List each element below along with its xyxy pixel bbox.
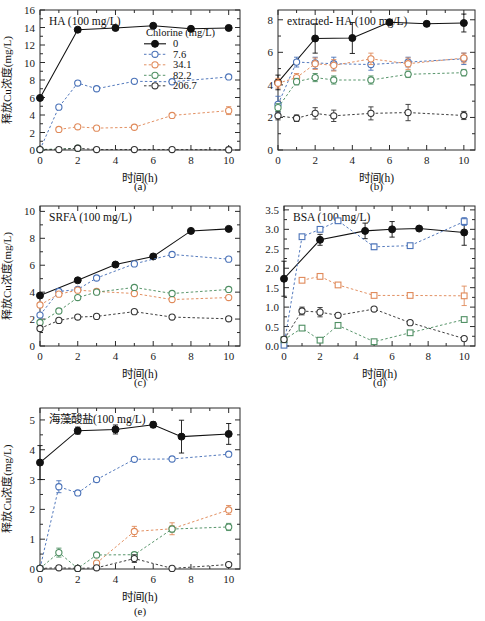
axis-ticks-c: 02468100246810 [24, 205, 240, 362]
axes-frame-d [284, 206, 475, 346]
x-tick-label: 4 [113, 573, 119, 585]
y-tick-label: 4 [30, 286, 36, 298]
series-e-34.1 [94, 505, 232, 566]
y-tick-label: 6 [30, 92, 36, 104]
series-c-206.7 [37, 309, 232, 332]
y-tick-label: 1 [30, 533, 36, 545]
y-tick-label: 3 [30, 474, 36, 486]
y-tick-label: 0 [268, 144, 274, 156]
axes-frame-e [40, 408, 240, 569]
x-tick-label: 6 [389, 350, 395, 362]
x-tick-label: 2 [75, 573, 81, 585]
panel-caption-a: (a) [134, 180, 147, 193]
y-tick-label: 0.0 [265, 340, 279, 352]
y-tick-label: 2 [30, 313, 36, 325]
y-tick-label: 5 [30, 414, 36, 426]
y-tick-label: 6 [30, 259, 36, 271]
x-tick-label: 10 [223, 154, 235, 166]
x-tick-label: 2 [317, 350, 323, 362]
legend-title: Chlorine (mg/L) [146, 27, 216, 39]
chart-panel-b: 024681002468extracted- HA (100 mg/L)时间(h… [248, 0, 485, 196]
series-d-0 [281, 220, 468, 297]
y-tick-label: 0 [30, 340, 36, 352]
x-tick-label: 10 [459, 350, 471, 362]
y-tick-label: 14 [24, 22, 36, 34]
chart-svg-d: 02468100.00.51.01.52.02.53.03.5BSA (100 … [248, 196, 485, 392]
y-tick-label: 12 [24, 39, 35, 51]
y-tick-label: 4 [268, 79, 274, 91]
x-tick-label: 8 [425, 350, 431, 362]
panel-caption-d: (d) [373, 376, 386, 389]
y-tick-label: 2 [30, 127, 36, 139]
panel-caption-e: (e) [134, 605, 147, 618]
y-tick-label: 1.0 [265, 301, 279, 313]
series-d-206.7 [281, 306, 467, 343]
series-e-0 [37, 420, 233, 479]
x-tick-label: 4 [350, 154, 356, 166]
axis-ticks-d: 02468100.00.51.01.52.02.53.03.5 [265, 204, 475, 362]
y-tick-label: 2.0 [265, 262, 279, 274]
series-a-34.1 [56, 107, 232, 133]
x-tick-label: 8 [188, 573, 194, 585]
panel-title-a: HA (100 mg/L) [49, 15, 121, 28]
y-tick-label: 16 [24, 4, 36, 16]
y-tick-label: 10 [24, 205, 36, 217]
legend-item-label: 206.7 [173, 80, 197, 91]
y-tick-label: 8 [268, 14, 274, 26]
series-a-206.7 [37, 145, 232, 153]
y-axis-title-e: 释放Cu浓度(mg/L) [0, 444, 14, 532]
series-d-82.2 [281, 317, 467, 345]
x-tick-label: 2 [75, 350, 81, 362]
x-tick-label: 0 [37, 573, 43, 585]
x-tick-label: 10 [458, 154, 470, 166]
x-tick-label: 6 [150, 573, 156, 585]
y-tick-label: 2.5 [265, 243, 279, 255]
x-tick-label: 2 [312, 154, 318, 166]
y-axis-title-c: 释放Cu浓度(mg/L) [0, 232, 14, 320]
x-tick-label: 8 [188, 154, 194, 166]
chart-svg-c: 02468100246810SRFA (100 mg/L)时间(h)释放Cu浓度… [0, 196, 248, 392]
y-axis-title-a: 释放Cu浓度(mg/L) [0, 36, 14, 124]
chart-svg-e: 0246810012345海藻酸盐(100 mg/L)时间(h)释放Cu浓度(m… [0, 392, 248, 621]
series-d-34.1 [299, 274, 467, 306]
legend-item-label: 34.1 [173, 59, 191, 70]
x-tick-label: 8 [424, 154, 430, 166]
axes-frame-c [40, 206, 240, 346]
panel-title-d: BSA (100 mg/L) [293, 211, 370, 224]
chart-panel-e: 0246810012345海藻酸盐(100 mg/L)时间(h)释放Cu浓度(m… [0, 392, 248, 621]
x-tick-label: 6 [150, 350, 156, 362]
axes-frame-b [278, 10, 475, 150]
y-tick-label: 3.5 [265, 204, 279, 216]
x-tick-label: 10 [223, 573, 235, 585]
y-tick-label: 4 [30, 444, 36, 456]
x-tick-label: 6 [150, 154, 156, 166]
chart-panel-a: 02468100246810121416HA (100 mg/L)Chlorin… [0, 0, 248, 196]
y-tick-label: 0.5 [265, 321, 279, 333]
panel-title-c: SRFA (100 mg/L) [49, 211, 132, 224]
y-tick-label: 4 [30, 109, 36, 121]
x-axis-title-e: 时间(h) [122, 591, 158, 604]
x-tick-label: 8 [188, 350, 194, 362]
x-tick-label: 4 [113, 154, 119, 166]
chart-panel-d: 02468100.00.51.01.52.02.53.03.5BSA (100 … [248, 196, 485, 392]
y-tick-label: 10 [24, 57, 36, 69]
y-tick-label: 3.0 [265, 223, 279, 235]
series-b-82.2 [275, 69, 467, 111]
x-tick-label: 2 [75, 154, 81, 166]
x-tick-label: 0 [275, 154, 281, 166]
panel-title-e: 海藻酸盐(100 mg/L) [49, 412, 146, 426]
x-tick-label: 6 [387, 154, 393, 166]
y-tick-label: 8 [30, 232, 36, 244]
y-tick-label: 2 [268, 111, 274, 123]
x-tick-label: 10 [223, 350, 235, 362]
y-tick-label: 1.5 [265, 282, 279, 294]
figure-root: 02468100246810121416HA (100 mg/L)Chlorin… [0, 0, 485, 621]
panel-caption-b: (b) [370, 180, 383, 193]
series-d-7.6 [281, 218, 467, 348]
y-tick-label: 8 [30, 74, 36, 86]
x-tick-label: 0 [281, 350, 287, 362]
series-b-206.7 [275, 104, 467, 121]
y-tick-label: 0 [30, 563, 36, 575]
series-c-82.2 [37, 284, 232, 325]
chart-svg-a: 02468100246810121416HA (100 mg/L)Chlorin… [0, 0, 248, 196]
